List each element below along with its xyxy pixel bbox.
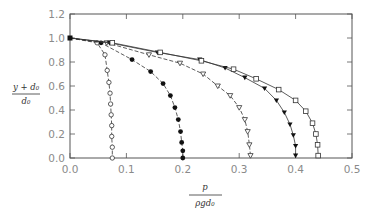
data-point [108,102,112,106]
start-point [68,36,73,41]
data-point [109,113,113,117]
x-axis-label-denominator: ρgd₀ [194,198,215,208]
x-tick-label: 0.1 [118,163,135,175]
y-axis-label-numerator: y + d₀ [12,82,40,92]
data-point [107,80,111,84]
data-point [176,117,181,122]
y-tick-label: 0.0 [48,152,65,164]
data-point [146,53,151,58]
data-point [105,68,109,72]
data-point [108,91,112,95]
data-point [130,57,135,62]
y-axis-label-denominator: d₀ [22,96,31,106]
data-point [245,130,250,135]
x-tick-label: 0.5 [344,163,361,175]
y-tick-label: 0.2 [48,128,65,140]
data-point [110,145,114,149]
data-point [161,81,166,86]
data-point [103,53,107,57]
x-tick-label: 0.3 [231,163,248,175]
data-point [291,133,296,138]
x-axis-ticks: 0.00.10.20.30.40.5 [62,14,361,175]
data-point [247,143,252,148]
data-point [303,109,308,114]
y-tick-label: 0.4 [48,104,65,116]
data-point [231,67,236,72]
data-point [178,129,183,134]
data-point [110,41,115,46]
x-tick-label: 0.2 [174,163,191,175]
series-layer [68,36,321,161]
chart: 0.00.10.20.30.40.5 0.00.20.40.60.81.01.2… [0,0,371,224]
data-point [180,156,185,161]
data-point [293,144,298,149]
y-axis-ticks: 0.00.20.40.60.81.01.2 [48,8,352,164]
data-point [148,69,153,74]
x-axis-label-numerator: p [202,182,208,192]
series-open-squares [70,38,320,158]
data-point [180,148,185,153]
series-line-open-triangles [70,38,251,156]
series-line-filled-circles [70,38,183,158]
data-point [315,143,320,148]
data-point [199,59,204,64]
data-point [110,123,114,127]
data-point [110,156,114,160]
data-point [237,106,242,111]
data-point [274,98,279,103]
x-tick-label: 0.4 [287,163,304,175]
y-tick-label: 1.0 [48,32,65,44]
x-tick-label: 0.0 [62,163,79,175]
data-point [242,118,247,123]
data-point [276,87,281,92]
data-point [316,153,321,158]
series-filled-circles [70,38,185,160]
data-point [310,121,315,126]
data-point [179,140,184,145]
data-point [177,61,182,66]
y-axis-label: y + d₀ d₀ [12,82,40,106]
data-point [110,134,114,138]
data-point [242,76,247,81]
x-axis-label: p ρgd₀ [189,182,222,208]
data-point [293,98,298,103]
data-point [282,110,287,115]
data-point [158,50,163,55]
series-open-circles [70,38,115,160]
y-tick-label: 0.8 [48,56,65,68]
data-point [254,77,259,82]
data-point [173,105,178,110]
data-point [215,84,220,89]
data-point [168,93,173,98]
data-point [287,122,292,127]
y-tick-label: 1.2 [48,8,65,20]
y-tick-label: 0.6 [48,80,65,92]
data-point [314,132,319,137]
series-open-triangles [70,38,253,158]
